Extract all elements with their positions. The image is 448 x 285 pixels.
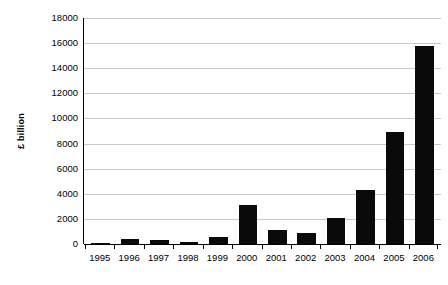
y-axis-tick-label: 2000: [0, 214, 78, 224]
x-axis-tick: [262, 245, 291, 250]
y-axis-tick-label: 6000: [0, 164, 78, 174]
bar-slot: [115, 18, 144, 244]
x-axis-tick-label: 2000: [232, 252, 261, 266]
x-axis-tick-label: 1997: [144, 252, 173, 266]
bar-slot: [380, 18, 409, 244]
x-axis-tick-label: 2004: [350, 252, 379, 266]
bar-slot: [174, 18, 203, 244]
x-axis-tick-label: 1995: [85, 252, 114, 266]
y-axis-tick-label: 8000: [0, 139, 78, 149]
bar-slot: [351, 18, 380, 244]
x-axis-tick-label: 1999: [203, 252, 232, 266]
bar[interactable]: [150, 240, 169, 244]
bar-slot: [145, 18, 174, 244]
x-axis-tick: [85, 245, 114, 250]
bar[interactable]: [121, 239, 140, 244]
x-axis-tick: [173, 245, 202, 250]
bar-slot: [321, 18, 350, 244]
x-axis-tick: [350, 245, 379, 250]
x-axis-ticks: [83, 245, 440, 250]
x-axis-tick-label: 2001: [262, 252, 291, 266]
x-axis-tick-label: 2005: [379, 252, 408, 266]
x-axis-tick: [203, 245, 232, 250]
x-axis-tick-label: 2002: [291, 252, 320, 266]
x-axis-tick: [320, 245, 349, 250]
x-axis-tick-labels: 1995199619971998199920002001200220032004…: [83, 252, 440, 266]
bar[interactable]: [239, 205, 258, 244]
bar-chart: £ billion 020004000600080001000012000140…: [0, 0, 448, 285]
bar-slot: [410, 18, 439, 244]
bar-slot: [292, 18, 321, 244]
x-axis-tick: [291, 245, 320, 250]
bar[interactable]: [327, 218, 346, 244]
x-axis-tick: [232, 245, 261, 250]
bars-layer: [84, 18, 441, 244]
bar[interactable]: [91, 243, 110, 244]
y-axis-tick-label: 0: [0, 239, 78, 249]
y-axis-tick-label: 10000: [0, 113, 78, 123]
bar-slot: [86, 18, 115, 244]
bar[interactable]: [268, 230, 287, 244]
x-axis-tick: [144, 245, 173, 250]
x-axis-tick-label: 1998: [173, 252, 202, 266]
x-axis-tick: [379, 245, 408, 250]
bar-slot: [263, 18, 292, 244]
bar[interactable]: [415, 46, 434, 244]
bar-slot: [233, 18, 262, 244]
x-axis-tick: [409, 245, 438, 250]
bar[interactable]: [386, 132, 405, 244]
bar-slot: [204, 18, 233, 244]
y-axis-tick-label: 12000: [0, 88, 78, 98]
y-axis-tick-label: 14000: [0, 63, 78, 73]
y-axis-tick-labels: 0200040006000800010000120001400016000180…: [0, 18, 78, 244]
x-axis-tick: [114, 245, 143, 250]
bar[interactable]: [209, 237, 228, 244]
y-axis-tick-label: 18000: [0, 13, 78, 23]
bar[interactable]: [180, 242, 199, 245]
y-axis-tick-label: 4000: [0, 189, 78, 199]
bar[interactable]: [356, 190, 375, 244]
bar[interactable]: [297, 233, 316, 244]
x-axis-tick-label: 2003: [320, 252, 349, 266]
y-axis-tick-label: 16000: [0, 38, 78, 48]
plot-area: [83, 18, 441, 244]
x-axis-tick-label: 2006: [409, 252, 438, 266]
x-axis-tick-label: 1996: [114, 252, 143, 266]
